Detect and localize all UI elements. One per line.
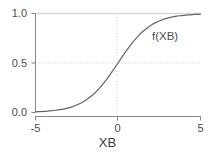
x-axis-title: XB (0, 136, 215, 149)
y-tick-label-3: 0.0 (1, 107, 27, 118)
x-tick-label-3: 5 (189, 123, 213, 134)
sigmoid-curve (36, 14, 201, 112)
x-tick-label-1: -5 (24, 123, 48, 134)
y-tick-label-2: 0.5 (1, 58, 27, 69)
curve-annotation-label: f(XB) (152, 30, 178, 42)
sigmoid-chart-figure: 1.0 0.5 0.0 -5 0 5 f(XB) XB (0, 0, 215, 153)
y-tick-label-1: 1.0 (1, 8, 27, 19)
x-tick-label-2: 0 (106, 123, 130, 134)
